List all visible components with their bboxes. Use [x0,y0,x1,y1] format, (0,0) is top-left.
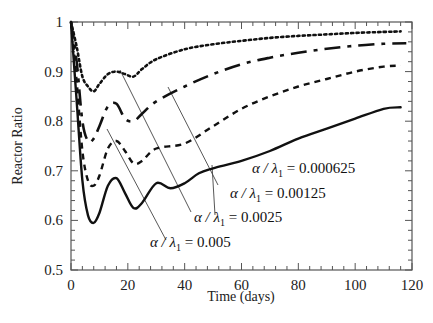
x-tick-label: 100 [344,277,367,293]
series-line-dotted [71,22,401,91]
y-tick-label: 1 [56,14,64,30]
x-tick-label: 20 [120,277,135,293]
plot-frame [71,22,412,270]
x-tick-label: 0 [67,277,75,293]
y-tick-label: 0.7 [44,163,63,179]
series-annotation-label: α / λ1 = 0.005 [150,234,231,253]
y-tick-label: 0.6 [44,212,63,228]
series-annotation-label: α / λ1 = 0.0025 [194,209,282,228]
x-tick-label: 120 [401,277,424,293]
y-tick-label: 0.5 [44,262,63,278]
x-tick-label: 40 [177,277,192,293]
series-annotation-label: α / λ1 = 0.00125 [230,185,326,204]
plot-area-border [71,22,412,270]
annotation-leader-line [107,129,166,240]
y-tick-label: 0.9 [44,64,63,80]
x-tick-label: 80 [291,277,306,293]
annotation-leader-line [120,70,191,212]
series-annotation-label: α / λ1 = 0.000625 [252,160,355,179]
axis-tick-labels: 0204060801001200.50.60.70.80.91 [44,14,423,293]
y-tick-label: 0.8 [44,113,63,129]
axis-ticks [71,22,412,270]
annotation-leader-line [212,165,215,215]
x-axis-title: Time (days) [207,289,275,305]
reactor-ratio-chart: 0204060801001200.50.60.70.80.91 α / λ1 =… [0,0,433,323]
series-annotations: α / λ1 = 0.000625α / λ1 = 0.00125α / λ1 … [150,160,355,253]
y-axis-title: Reactor Ratio [10,107,25,184]
